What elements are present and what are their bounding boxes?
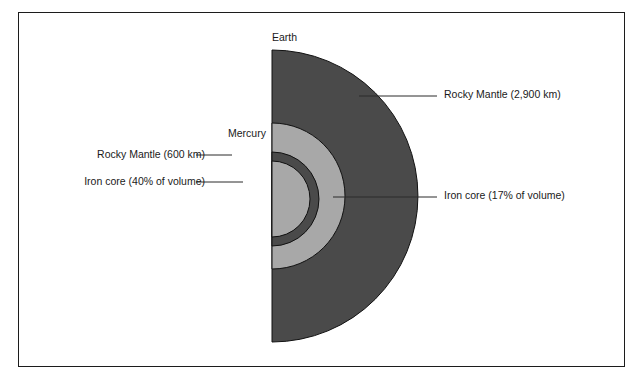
earth-core-label: Iron core (17% of volume) [444,190,565,202]
mercury-mantle-label: Rocky Mantle (600 km) [97,149,205,161]
earth-mantle-label: Rocky Mantle (2,900 km) [444,89,561,101]
mercury-title-label: Mercury [228,128,266,140]
mercury-core-label: Iron core (40% of volume) [84,176,205,188]
earth-title-label: Earth [272,32,297,44]
planetary-interiors-figure: Mercury Earth Rocky Mantle (600 km) Iron… [0,0,640,381]
